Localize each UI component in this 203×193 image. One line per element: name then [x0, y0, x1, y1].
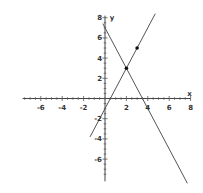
- x-tick-label: -2: [80, 104, 88, 112]
- x-tick-label: -6: [37, 104, 45, 112]
- y-tick-label: -6: [94, 156, 102, 164]
- x-tick-label: 8: [188, 104, 193, 112]
- y-axis-label: y: [110, 14, 115, 22]
- y-tick-label: 6: [97, 34, 102, 42]
- y-tick-label: 4: [97, 55, 102, 63]
- x-axis-label: x: [187, 90, 192, 98]
- data-point: [125, 66, 129, 70]
- y-tick-label: 2: [97, 75, 102, 83]
- axes: [23, 16, 191, 182]
- data-point: [135, 46, 139, 50]
- coordinate-plane: -6-4-224688642-2-4-6xy: [0, 0, 203, 193]
- x-tick-label: 2: [124, 104, 129, 112]
- y-tick-label: 8: [97, 14, 102, 22]
- y-tick-label: -2: [94, 115, 102, 123]
- x-tick-label: 4: [145, 104, 150, 112]
- x-tick-label: 6: [167, 104, 172, 112]
- y-tick-label: -4: [94, 135, 102, 143]
- x-tick-label: -4: [58, 104, 66, 112]
